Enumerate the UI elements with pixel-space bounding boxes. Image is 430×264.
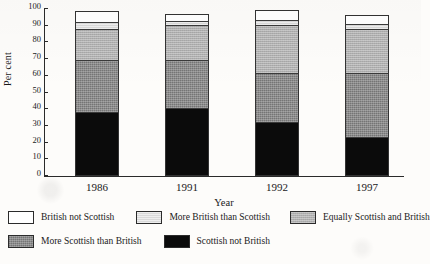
x-tick-label: 1992 [242, 181, 312, 193]
y-tick: 70 [14, 58, 48, 59]
y-tick-mark [44, 92, 48, 93]
y-tick-label: 70 [33, 52, 42, 61]
legend-swatch-icon [8, 211, 34, 224]
bar-segment [255, 25, 299, 73]
y-tick-mark [44, 58, 48, 59]
y-tick-label: 90 [33, 19, 42, 28]
legend-label: More British than Scottish [169, 212, 270, 223]
legend-swatch-icon [290, 211, 316, 224]
bar-segment [255, 73, 299, 121]
bar-segment [165, 14, 209, 21]
y-tick-label: 40 [33, 102, 42, 111]
y-tick-label: 60 [33, 69, 42, 78]
bar-1991 [165, 14, 209, 176]
y-tick: 50 [14, 92, 48, 93]
y-tick-mark [44, 41, 48, 42]
y-tick-mark [44, 108, 48, 109]
y-tick: 90 [14, 25, 48, 26]
legend-item[interactable]: More Scottish than British [8, 235, 142, 248]
y-tick-mark [44, 125, 48, 126]
y-tick-label: 30 [33, 119, 42, 128]
bar-segment [75, 29, 119, 60]
y-tick-label: 20 [33, 136, 42, 145]
legend-item[interactable]: Equally Scottish and British [290, 211, 430, 224]
bar-segment [165, 60, 209, 108]
y-tick-label: 0 [37, 169, 41, 178]
x-tick-label: 1986 [62, 181, 132, 193]
legend-row-1: British not ScottishMore British than Sc… [8, 206, 416, 228]
bar-1992 [255, 10, 299, 176]
y-tick: 0 [14, 175, 48, 176]
bar-segment [345, 15, 389, 24]
y-tick-mark [44, 142, 48, 143]
legend-swatch-icon [8, 235, 34, 248]
bar-segment [165, 108, 209, 176]
y-tick-mark [44, 175, 48, 176]
legend-swatch-icon [136, 211, 162, 224]
plot-area: 0102030405060708090100 1986199119921997 … [44, 9, 404, 177]
y-tick: 30 [14, 125, 48, 126]
y-tick-label: 100 [28, 2, 41, 11]
y-axis-line [44, 9, 45, 177]
legend: British not ScottishMore British than Sc… [0, 206, 421, 262]
bar-segment [165, 25, 209, 60]
bar-segment [345, 73, 389, 136]
y-tick-mark [44, 158, 48, 159]
y-tick-label: 10 [33, 152, 42, 161]
bar-segment [75, 11, 119, 23]
bar-segment [255, 122, 299, 176]
legend-label: British not Scottish [41, 212, 114, 223]
bar-1997 [345, 15, 389, 176]
bar-segment [75, 22, 119, 29]
bar-segment [345, 137, 389, 176]
stacked-bar-chart: Per cent 0102030405060708090100 19861991… [0, 0, 421, 200]
y-tick: 100 [14, 8, 48, 9]
legend-label: Scottish not British [197, 236, 270, 247]
legend-item[interactable]: British not Scottish [8, 211, 114, 224]
y-tick-label: 50 [33, 86, 42, 95]
bar-segment [75, 112, 119, 176]
x-axis-line [44, 176, 404, 177]
bar-segment [255, 10, 299, 20]
x-tick-label: 1997 [332, 181, 402, 193]
x-tick-label: 1991 [152, 181, 222, 193]
y-tick-mark [44, 25, 48, 26]
y-axis-title: Per cent [2, 52, 16, 86]
legend-label: More Scottish than British [41, 236, 142, 247]
y-tick-label: 80 [33, 35, 42, 44]
y-tick-mark [44, 8, 48, 9]
y-tick: 40 [14, 108, 48, 109]
y-tick: 80 [14, 41, 48, 42]
y-tick: 20 [14, 142, 48, 143]
legend-label: Equally Scottish and British [323, 212, 430, 223]
bar-1986 [75, 11, 119, 176]
legend-row-2: More Scottish than BritishScottish not B… [8, 230, 416, 252]
legend-item[interactable]: Scottish not British [164, 235, 270, 248]
legend-swatch-icon [164, 235, 190, 248]
bar-segment [75, 60, 119, 112]
bar-segment [345, 29, 389, 73]
y-tick: 60 [14, 75, 48, 76]
y-tick-mark [44, 75, 48, 76]
legend-item[interactable]: More British than Scottish [136, 211, 270, 224]
y-tick: 10 [14, 158, 48, 159]
